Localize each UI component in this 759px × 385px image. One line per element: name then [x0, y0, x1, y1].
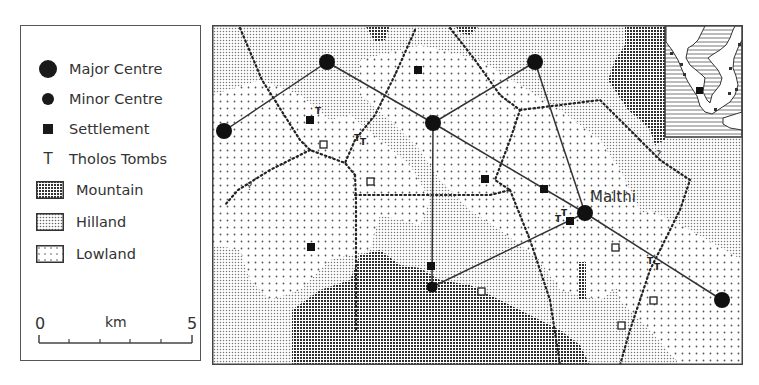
major-centre-icon: [37, 60, 59, 78]
major-centre-icon: [319, 54, 335, 70]
major-centre-icon: [527, 54, 543, 70]
uncertain-boundary-marker-west: ?: [247, 181, 252, 192]
inset-locator-map: [665, 25, 742, 137]
legend-label: Hilland: [76, 214, 126, 230]
settlement-icon: [37, 120, 59, 138]
settlement-icon: [566, 217, 574, 225]
major-centre-icon: [714, 292, 730, 308]
mountain-swatch: [36, 181, 64, 199]
malthi-label: Malthi: [590, 188, 636, 206]
tholos-tomb-icon: T: [561, 208, 568, 218]
settlement-icon: [307, 243, 315, 251]
inset-study-area-marker: [696, 87, 703, 94]
uncertain-boundary-marker-east: ?: [656, 149, 661, 160]
legend-label: Tholos Tombs: [69, 151, 167, 167]
settlement-icon: [414, 66, 422, 74]
settlement-icon: [481, 175, 489, 183]
scale-bar-labels: 0 km 5: [35, 314, 205, 334]
tholos-tomb-icon: T: [647, 256, 654, 266]
minor-centre-icon: [427, 282, 438, 293]
scale-start: 0: [35, 314, 45, 333]
legend-label: Major Centre: [69, 61, 162, 77]
lowland-swatch: [36, 245, 64, 263]
settlement-map: ? ? T: [212, 25, 743, 365]
legend-item-settlement: Settlement: [37, 120, 149, 138]
tholos-tomb-icon: T: [360, 137, 367, 147]
hilland-swatch: [36, 213, 64, 231]
legend-item-minor-centre: Minor Centre: [37, 90, 163, 108]
open-settlement-icon: [367, 178, 374, 185]
tholos-tomb-icon: T: [37, 150, 59, 168]
legend-item-tholos-tombs: T Tholos Tombs: [37, 150, 167, 168]
open-settlement-icon: [612, 244, 619, 251]
map-legend: Major Centre Minor Centre Settlement T T…: [20, 25, 201, 361]
open-settlement-icon: [650, 297, 657, 304]
legend-item-major-centre: Major Centre: [37, 60, 162, 78]
mountain-area-small: [578, 262, 586, 300]
legend-item-hilland: Hilland: [36, 213, 126, 231]
open-settlement-icon: [618, 322, 625, 329]
tholos-tomb-icon: T: [315, 106, 322, 116]
legend-label: Lowland: [76, 246, 136, 262]
scale-bar: [37, 332, 197, 346]
scale-unit: km: [105, 314, 127, 330]
legend-label: Minor Centre: [69, 91, 163, 107]
major-centre-icon: [425, 115, 441, 131]
legend-label: Mountain: [76, 182, 144, 198]
minor-centre-icon: [37, 90, 59, 108]
settlement-icon: [540, 185, 548, 193]
legend-item-mountain: Mountain: [36, 181, 144, 199]
settlement-icon: [427, 262, 435, 270]
legend-item-lowland: Lowland: [36, 245, 136, 263]
settlement-icon: [306, 116, 314, 124]
major-centre-malthi-icon: [577, 205, 593, 221]
scale-end: 5: [187, 314, 197, 333]
open-settlement-icon: [478, 288, 485, 295]
open-settlement-icon: [320, 141, 327, 148]
major-centre-icon: [216, 123, 232, 139]
legend-label: Settlement: [69, 121, 149, 137]
tholos-tomb-icon: T: [654, 262, 661, 272]
